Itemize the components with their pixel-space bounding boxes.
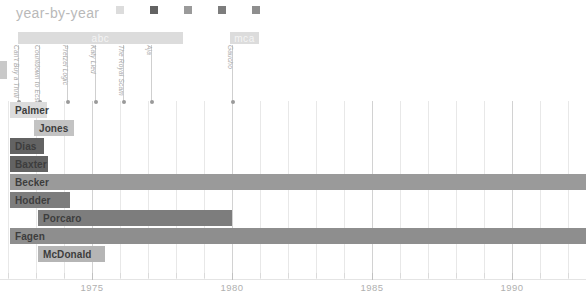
tick-1974 <box>64 273 65 278</box>
album-title: Katy Lied <box>90 45 97 74</box>
member-bar-becker[interactable]: Becker <box>10 174 586 190</box>
tick-1977 <box>148 273 149 278</box>
album-title: The Royal Scam <box>118 45 125 96</box>
album-title: Can't Buy a Thrill <box>13 45 20 98</box>
legend-item-drums[interactable] <box>218 6 232 14</box>
member-bar-mcdonald[interactable]: McDonald <box>38 246 105 262</box>
member-bar-baxter[interactable]: Baxter <box>10 156 48 172</box>
chart-header: year-by-year <box>0 0 586 28</box>
table-row: Jones <box>0 119 586 137</box>
tick-1986 <box>400 273 401 278</box>
x-tick-label: 1975 <box>80 282 103 293</box>
legend-item-keyboards[interactable] <box>252 6 266 14</box>
member-bar-hodder[interactable]: Hodder <box>10 192 70 208</box>
x-axis-ticks <box>0 273 586 280</box>
tick-1987 <box>428 273 429 278</box>
member-bar-dias[interactable]: Dias <box>10 138 44 154</box>
x-tick-label: 1980 <box>220 282 243 293</box>
tick-1981 <box>260 273 261 278</box>
tick-1989 <box>484 273 485 278</box>
legend-item-guitar[interactable] <box>150 6 164 14</box>
tick-1991 <box>540 273 541 278</box>
tick-1988 <box>456 273 457 278</box>
tick-1980 <box>232 273 233 280</box>
member-bar-fagen[interactable]: Fagen <box>10 228 586 244</box>
member-bar-palmer[interactable]: Palmer <box>10 102 47 118</box>
member-name: Baxter <box>10 159 47 170</box>
member-bar-porcaro[interactable]: Porcaro <box>38 210 232 226</box>
square-swatch-icon <box>150 6 158 14</box>
tick-1973 <box>36 273 37 278</box>
legend <box>116 6 286 14</box>
table-row: Hodder <box>0 191 586 209</box>
table-row: Becker <box>0 173 586 191</box>
record-label-mca[interactable]: mca <box>230 32 259 44</box>
member-name: Fagen <box>10 231 45 242</box>
album-title: Gaucho <box>227 45 234 69</box>
tick-1975 <box>92 273 93 280</box>
square-swatch-icon <box>252 6 260 14</box>
album-title: Pretzel Logic <box>62 45 69 85</box>
tick-1976 <box>120 273 121 278</box>
table-row: Palmer <box>0 101 586 119</box>
member-name: Dias <box>10 141 37 152</box>
tick-1984 <box>344 273 345 278</box>
legend-item-bass[interactable] <box>184 6 198 14</box>
x-axis-labels: 1975198019851990 <box>0 282 586 298</box>
member-rows: PalmerJonesDiasBaxterBeckerHodderPorcaro… <box>0 101 586 263</box>
square-swatch-icon <box>116 6 124 14</box>
tick-1985 <box>372 273 373 280</box>
member-name: Becker <box>10 177 49 188</box>
table-row: Porcaro <box>0 209 586 227</box>
member-name: McDonald <box>38 249 92 260</box>
x-tick-label: 1985 <box>360 282 383 293</box>
member-name: Porcaro <box>38 213 82 224</box>
table-row: Baxter <box>0 155 586 173</box>
table-row: Fagen <box>0 227 586 245</box>
square-swatch-icon <box>218 6 226 14</box>
member-name: Hodder <box>10 195 51 206</box>
table-row: McDonald <box>0 245 586 263</box>
page-title: year-by-year <box>16 5 99 21</box>
tick-1992 <box>568 273 569 278</box>
tick-1990 <box>512 273 513 280</box>
record-label-abc[interactable]: abc <box>18 32 183 44</box>
tick-1983 <box>316 273 317 278</box>
year-by-year-chart: year-by-year abcmca Can't Buy a ThrillCo… <box>0 0 586 304</box>
x-tick-label: 1990 <box>500 282 523 293</box>
square-swatch-icon <box>184 6 192 14</box>
tick-1978 <box>176 273 177 278</box>
album-title: Aja <box>146 45 153 55</box>
member-name: Palmer <box>10 105 49 116</box>
plot-area: abcmca Can't Buy a ThrillCountdown to Ec… <box>0 28 586 304</box>
table-row: Dias <box>0 137 586 155</box>
legend-item-vocals[interactable] <box>116 6 130 14</box>
tick-1972 <box>8 273 9 278</box>
member-bar-jones[interactable]: Jones <box>34 120 74 136</box>
tick-1979 <box>204 273 205 278</box>
tick-1982 <box>288 273 289 278</box>
member-name: Jones <box>34 123 68 134</box>
